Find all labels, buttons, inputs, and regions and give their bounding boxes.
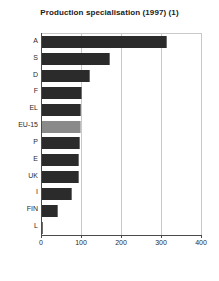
bar-el [41, 104, 81, 116]
gridline-x-400 [201, 34, 202, 236]
y-tick-label-l: L [0, 222, 38, 229]
y-tick-label-el: EL [0, 104, 38, 111]
y-tick-label-fin: FIN [0, 205, 38, 212]
bar-fin [41, 205, 58, 217]
x-tick-label-100: 100 [68, 239, 94, 246]
bar-row [41, 87, 201, 99]
x-axis-tick-labels: 0100200300400 [0, 239, 219, 253]
bar-row [41, 104, 201, 116]
bar-a [41, 36, 167, 48]
chart-title: Production specialisation (1997) (1) [0, 8, 219, 17]
y-axis-line [41, 33, 42, 236]
bars-layer [41, 34, 201, 236]
y-tick-label-uk: UK [0, 172, 38, 179]
bar-i [41, 188, 72, 200]
x-tick-label-200: 200 [108, 239, 134, 246]
y-tick-label-a: A [0, 37, 38, 44]
x-tick-label-300: 300 [148, 239, 174, 246]
bar-uk [41, 171, 79, 183]
plot-area [41, 33, 202, 236]
bar-row [41, 188, 201, 200]
y-tick-label-f: F [0, 87, 38, 94]
bar-row [41, 121, 201, 133]
bar-row [41, 137, 201, 149]
y-tick-label-p: P [0, 138, 38, 145]
x-tick-label-0: 0 [28, 239, 54, 246]
x-tick-label-400: 400 [188, 239, 214, 246]
y-axis-tick-labels: ASDFELEU-15PEUKIFINL [0, 33, 38, 235]
bar-row [41, 53, 201, 65]
bar-f [41, 87, 82, 99]
chart-figure: Production specialisation (1997) (1) ASD… [0, 0, 219, 281]
y-tick-label-s: S [0, 54, 38, 61]
x-tick-0 [41, 235, 42, 238]
bar-row [41, 222, 201, 234]
x-tick-300 [161, 235, 162, 238]
bar-eu-15 [41, 121, 81, 133]
bar-row [41, 70, 201, 82]
bar-row [41, 36, 201, 48]
bar-d [41, 70, 90, 82]
bar-row [41, 205, 201, 217]
bar-row [41, 154, 201, 166]
bar-s [41, 53, 110, 65]
bar-p [41, 137, 80, 149]
y-tick-label-e: E [0, 155, 38, 162]
x-tick-400 [201, 235, 202, 238]
bar-e [41, 154, 79, 166]
y-tick-label-eu-15: EU-15 [0, 121, 38, 128]
bar-row [41, 171, 201, 183]
x-tick-100 [81, 235, 82, 238]
y-tick-label-d: D [0, 71, 38, 78]
y-tick-label-i: I [0, 188, 38, 195]
x-tick-200 [121, 235, 122, 238]
